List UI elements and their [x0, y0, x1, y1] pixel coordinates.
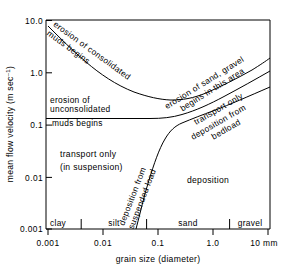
hjulstrom-diagram-figure: 10.0 1.0 0.1 0.01 0.001 0.001 0.01 0.1 1… [0, 0, 285, 278]
x-axis-ticks [48, 229, 268, 235]
y-tick-label-0.1: 0.1 [30, 120, 43, 130]
label-erosion-consolidated: erosion of consolidated muds begins [45, 19, 133, 91]
x-tick-label-0.1: 0.1 [152, 238, 165, 248]
label-deposition: deposition [187, 175, 229, 185]
y-tick-label-1: 1.0 [30, 68, 43, 78]
grain-class-label-clay: clay [50, 218, 67, 228]
x-tick-label-10mm: 10 mm [250, 238, 278, 248]
x-tick-label-0.01: 0.01 [94, 238, 112, 248]
grain-class-label-gravel: gravel [238, 218, 263, 228]
chart-svg: 10.0 1.0 0.1 0.01 0.001 0.001 0.01 0.1 1… [0, 0, 285, 278]
y-tick-labels: 10.0 1.0 0.1 0.01 0.001 [20, 16, 43, 234]
label-transport-suspension-line2: (in suspension) [60, 162, 123, 172]
y-tick-label-0.001: 0.001 [20, 224, 43, 234]
y-tick-label-0.01: 0.01 [25, 173, 43, 183]
label-deposition-suspended: deposition from suspended load [117, 164, 158, 230]
x-tick-label-0.001: 0.001 [37, 238, 60, 248]
x-tick-label-1.0: 1.0 [207, 238, 220, 248]
grain-class-label-sand: sand [178, 218, 197, 228]
label-erosion-unconsolidated-line2: unconsolidated [50, 104, 111, 114]
label-erosion-unconsolidated: erosion of unconsolidated muds begins [50, 95, 111, 128]
y-axis-title-close: ) [5, 66, 15, 69]
x-axis-title: grain size (diameter) [116, 254, 201, 264]
label-erosion-consolidated-line1: erosion of consolidated [52, 19, 133, 82]
svg-text:mean flow velocity (m sec–1): mean flow velocity (m sec–1) [4, 66, 15, 183]
x-tick-labels: 0.001 0.01 0.1 1.0 10 mm [37, 238, 278, 248]
label-transport-suspension-line1: transport only [60, 149, 117, 159]
y-tick-label-10: 10.0 [25, 16, 43, 26]
y-axis-title-main: mean flow velocity (m sec [5, 76, 15, 182]
y-axis-title: mean flow velocity (m sec–1) [4, 66, 15, 183]
label-erosion-unconsolidated-line3: muds begins [52, 118, 103, 128]
grain-class-label-silt: silt [108, 218, 120, 228]
curve-deposition-boundary [136, 87, 270, 229]
grain-class-boundary-ticks [81, 219, 229, 229]
label-transport-suspension: transport only (in suspension) [60, 149, 123, 172]
grain-class-labels: clay silt sand gravel [50, 218, 262, 228]
